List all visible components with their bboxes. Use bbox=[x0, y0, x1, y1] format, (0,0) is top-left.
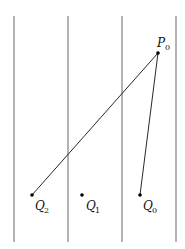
svg-text:0: 0 bbox=[152, 206, 157, 215]
svg-text:2: 2 bbox=[44, 206, 49, 215]
label-q0: Q 0 bbox=[143, 199, 157, 215]
diagram-canvas: P 0 Q 2 Q 1 Q 0 bbox=[0, 0, 185, 249]
svg-text:1: 1 bbox=[95, 206, 100, 215]
point-q2 bbox=[30, 193, 34, 197]
label-p0: P 0 bbox=[156, 36, 170, 52]
label-q1: Q 1 bbox=[86, 199, 100, 215]
point-p0 bbox=[156, 51, 160, 55]
segment-p0-q0 bbox=[140, 53, 158, 195]
point-q1 bbox=[80, 193, 84, 197]
segment-p0-q2 bbox=[32, 53, 158, 195]
point-q0 bbox=[138, 193, 142, 197]
svg-text:0: 0 bbox=[165, 43, 170, 52]
label-q2: Q 2 bbox=[35, 199, 49, 215]
